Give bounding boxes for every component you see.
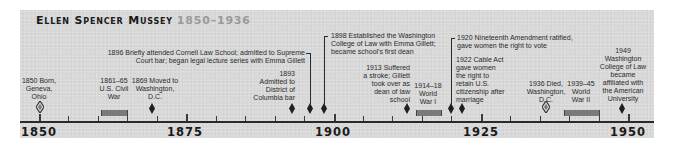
axis-tick (510, 116, 511, 121)
axis-tick (39, 114, 41, 121)
timeline-axis (20, 121, 654, 123)
axis-label-1875: 1875 (167, 125, 203, 139)
event-line: Admitted to (253, 78, 295, 86)
event-line: 1949 (600, 47, 646, 55)
event-line: War II (567, 96, 594, 104)
axis-tick (304, 116, 305, 121)
event-line: Washington, (132, 85, 178, 93)
axis-tick (127, 116, 128, 121)
axis-tick (628, 114, 630, 121)
axis-label-1925: 1925 (463, 125, 499, 139)
event-line: D.C. (132, 93, 178, 101)
axis-tick (569, 116, 570, 121)
event-line: gave women (456, 64, 505, 72)
leader-line-1920 (451, 38, 452, 104)
axis-tick (98, 116, 99, 121)
axis-tick (599, 116, 600, 121)
event-line: a stroke; Gillett (363, 72, 410, 80)
event-1869-moved: 1869 Moved to Washington, D.C. (132, 77, 178, 101)
timeline-panel (20, 10, 654, 138)
event-line: marriage (456, 96, 505, 104)
event-line: U.S. Civil (100, 85, 129, 93)
event-line: gave women the right to vote (457, 42, 573, 50)
diamond-icon (321, 103, 327, 114)
diamond-icon (619, 103, 625, 114)
event-1914-wwi: 1914–18 World War I (414, 82, 441, 106)
event-line: the American (600, 87, 646, 95)
event-line: War I (414, 98, 441, 106)
title-years: 1850–1936 (177, 14, 251, 27)
axis-label-1900: 1900 (315, 125, 351, 139)
event-1920-nineteenth-amendment: 1920 Nineteenth Amendment ratified, gave… (457, 34, 573, 50)
event-1896-cornell: 1896 Briefly attended Cornell Law School… (108, 49, 305, 65)
event-line: took over as (363, 80, 410, 88)
event-line: College of Law (600, 63, 646, 71)
event-line: 1850 Born, (22, 77, 56, 85)
event-line: Geneva, (22, 85, 56, 93)
axis-label-1850: 1850 (21, 125, 57, 139)
axis-tick (481, 114, 483, 121)
diamond-icon (448, 103, 454, 114)
diamond-icon (459, 103, 465, 114)
axis-tick (363, 116, 364, 121)
event-line: District of (253, 86, 295, 94)
event-line: school (363, 96, 410, 104)
event-1850-born: 1850 Born, Geneva, Ohio (22, 77, 56, 101)
axis-tick (157, 116, 158, 121)
event-line: Columbia bar (253, 94, 295, 102)
event-line: D.C. (527, 96, 566, 104)
leader-line-1898 (324, 36, 325, 104)
leader-line-1898-h (324, 36, 328, 37)
event-1913-stroke: 1913 Suffered a stroke; Gillett took ove… (363, 64, 410, 104)
event-line: 1893 (253, 70, 295, 78)
axis-tick (68, 116, 69, 121)
event-line: Court bar; began legal lecture series wi… (108, 57, 305, 65)
axis-tick (186, 114, 188, 121)
event-line: 1939–45 (567, 80, 594, 88)
axis-label-1950: 1950 (610, 125, 646, 139)
period-bar-wwi (416, 110, 442, 116)
event-line: War (100, 93, 129, 101)
event-line: dean of law (363, 88, 410, 96)
event-1893-dc-bar: 1893 Admitted to District of Columbia ba… (253, 70, 295, 102)
event-1949-american-university: 1949 Washington College of Law became af… (600, 47, 646, 103)
event-line: Washington, (527, 88, 566, 96)
event-line: World (414, 90, 441, 98)
period-bar-wwii (564, 110, 600, 116)
diamond-icon (307, 103, 313, 114)
diamond-icon (289, 103, 295, 114)
event-line: University (600, 95, 646, 103)
leader-line-1896 (310, 53, 311, 104)
event-line: citizenship after (456, 88, 505, 96)
event-line: affiliated with (600, 79, 646, 87)
event-line: Washington (600, 55, 646, 63)
event-line: 1913 Suffered (363, 64, 410, 72)
period-bar-civil-war (101, 110, 128, 116)
event-line: 1922 Cable Act (456, 56, 505, 64)
event-1898-college: 1898 Established the Washington College … (331, 32, 436, 56)
axis-tick (422, 116, 423, 121)
event-line: World (567, 88, 594, 96)
diamond-icon (149, 103, 155, 114)
event-line: Ohio (22, 93, 56, 101)
event-line: retain U.S. (456, 80, 505, 88)
event-line: became (600, 71, 646, 79)
event-1861-civil-war: 1861–65 U.S. Civil War (100, 77, 129, 101)
event-line: 1869 Moved to (132, 77, 178, 85)
axis-tick (216, 116, 217, 121)
axis-tick (451, 116, 452, 121)
axis-tick (245, 116, 246, 121)
axis-tick (334, 114, 336, 121)
diamond-icon (404, 103, 410, 114)
leader-line-1896-h (306, 53, 311, 54)
timeline-title: Ellen Spencer Mussey1850–1936 (36, 14, 251, 27)
event-line: College of Law with Emma Gillett; (331, 40, 436, 48)
event-1939-wwii: 1939–45 World War II (567, 80, 594, 104)
axis-tick (540, 116, 541, 121)
axis-tick (392, 116, 393, 121)
event-line: 1936 Died, (527, 80, 566, 88)
event-line: 1896 Briefly attended Cornell Law School… (108, 49, 305, 57)
event-line: the right to (456, 72, 505, 80)
axis-tick (275, 116, 276, 121)
leader-line-1920-h (451, 38, 455, 39)
